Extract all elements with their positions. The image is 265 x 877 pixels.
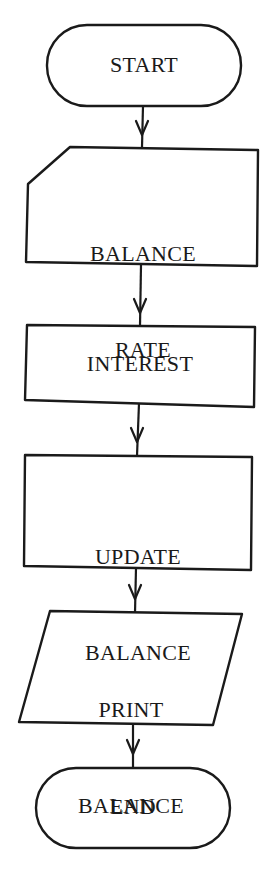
print-label: PRINT BALANCE — [31, 630, 231, 877]
end-label: END — [36, 791, 230, 823]
print-label-line-1: PRINT — [31, 694, 231, 726]
input-label: BALANCE RATE — [28, 174, 258, 430]
start-label: START — [47, 49, 241, 81]
flowchart: START BALANCE RATE INTEREST UPDATE BALAN… — [0, 0, 265, 877]
interest-label: INTEREST — [25, 348, 255, 380]
arrow-start-to-input — [136, 106, 148, 147]
update-label-line-1: UPDATE — [24, 541, 252, 573]
input-label-line-1: BALANCE — [28, 238, 258, 270]
